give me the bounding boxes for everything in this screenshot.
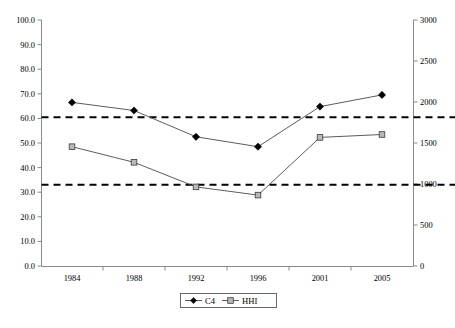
hhi-point-2005	[379, 132, 385, 138]
left-tick-80: 80.0	[20, 65, 35, 74]
x-axis: 1984 1988 1992 1996 2001 2005	[42, 267, 414, 284]
hhi-point-1992	[193, 184, 199, 190]
chart-canvas: 100.0 90.0 80.0 70.0 60.0 50.0 40.0 30.0…	[0, 0, 455, 328]
figure-caption	[6, 316, 306, 327]
right-tick-3000: 3000	[420, 16, 437, 25]
left-tick-40: 40.0	[20, 164, 35, 173]
left-tick-30: 30.0	[20, 188, 35, 197]
x-tick-1984: 1984	[64, 274, 82, 283]
chart-legend: C4 HHI	[181, 294, 277, 308]
right-tick-0: 0	[420, 262, 424, 271]
dual-axis-line-chart: 100.0 90.0 80.0 70.0 60.0 50.0 40.0 30.0…	[0, 0, 455, 328]
right-tick-2500: 2500	[420, 57, 437, 66]
left-tick-20: 20.0	[20, 213, 35, 222]
left-axis: 100.0 90.0 80.0 70.0 60.0 50.0 40.0 30.0…	[16, 16, 41, 271]
left-tick-100: 100.0	[16, 16, 35, 25]
right-axis: 3000 2500 2000 1500 1000 500 0	[414, 16, 437, 271]
reference-lines	[42, 117, 455, 185]
x-tick-1996: 1996	[250, 274, 267, 283]
left-tick-50: 50.0	[20, 139, 35, 148]
left-tick-70: 70.0	[20, 90, 35, 99]
legend-c4-label: C4	[205, 296, 216, 306]
hhi-point-1996	[255, 192, 261, 198]
c4-point-1992	[192, 133, 199, 140]
c4-point-2005	[378, 91, 385, 98]
hhi-point-2001	[317, 135, 323, 141]
right-tick-500: 500	[420, 221, 433, 230]
left-tick-60: 60.0	[20, 114, 35, 123]
series-c4	[68, 91, 385, 150]
left-tick-90: 90.0	[20, 41, 35, 50]
left-tick-0: 0.0	[25, 262, 35, 271]
c4-point-2001	[316, 103, 323, 110]
legend-hhi-label: HHI	[242, 296, 257, 306]
c4-point-1996	[254, 143, 261, 150]
c4-point-1984	[68, 99, 75, 106]
x-tick-2001: 2001	[312, 274, 329, 283]
x-tick-2005: 2005	[374, 274, 391, 283]
c4-point-1988	[130, 107, 137, 114]
x-tick-1988: 1988	[126, 274, 143, 283]
hhi-point-1988	[131, 160, 137, 166]
legend-hhi-marker-square-icon	[228, 298, 234, 304]
x-tick-1992: 1992	[188, 274, 205, 283]
left-tick-10: 10.0	[20, 237, 35, 246]
hhi-line	[72, 135, 382, 196]
right-tick-2000: 2000	[420, 98, 437, 107]
right-tick-1500: 1500	[420, 139, 437, 148]
c4-line	[72, 95, 382, 147]
hhi-point-1984	[69, 144, 75, 150]
